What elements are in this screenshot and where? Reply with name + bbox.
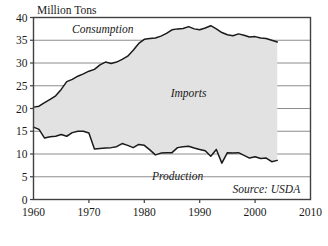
y-tick-label-5: 5 <box>22 171 28 183</box>
x-tick-label-2010: 2010 <box>299 206 322 218</box>
x-tick-label-1980: 1980 <box>133 206 156 218</box>
chart-svg: Million Tons 0510152025303540 1960197019… <box>0 0 328 246</box>
chart-container: Million Tons 0510152025303540 1960197019… <box>0 0 328 246</box>
x-tick-label-1970: 1970 <box>77 206 100 218</box>
annotation-consumption: Consumption <box>72 23 134 36</box>
annotation-imports: Imports <box>170 87 207 100</box>
y-tick-label-10: 10 <box>16 148 28 160</box>
y-tick-label-20: 20 <box>16 103 28 115</box>
y-tick-label-35: 35 <box>16 34 28 46</box>
y-tick-label-30: 30 <box>16 57 28 69</box>
x-tick-label-2000: 2000 <box>244 206 267 218</box>
y-tick-label-15: 15 <box>16 125 28 137</box>
x-tick-label-1990: 1990 <box>188 206 211 218</box>
y-tick-label-0: 0 <box>22 194 28 206</box>
annotation-production: Production <box>151 170 204 182</box>
y-axis-title: Million Tons <box>37 4 97 16</box>
annotation-source-usda: Source: USDA <box>233 183 302 195</box>
y-tick-label-25: 25 <box>16 80 28 92</box>
x-tick-label-1960: 1960 <box>22 206 45 218</box>
y-tick-label-40: 40 <box>16 12 28 24</box>
